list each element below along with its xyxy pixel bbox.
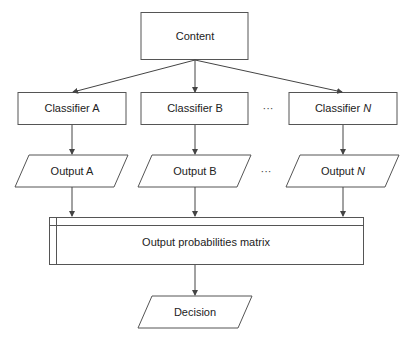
arrow-content-to-n xyxy=(195,60,342,92)
matrix-label: Output probabilities matrix xyxy=(142,236,270,248)
output-n-label: Output N xyxy=(321,165,365,177)
ellipsis-classifiers: ··· xyxy=(263,102,274,114)
classifier-n-label: Classifier N xyxy=(315,102,371,114)
ellipsis-outputs: ··· xyxy=(261,165,272,177)
decision-label: Decision xyxy=(174,306,216,318)
classifier-b-label: Classifier B xyxy=(167,102,223,114)
content-label: Content xyxy=(176,30,215,42)
classifier-a-label: Classifier A xyxy=(44,102,99,114)
arrow-content-to-a xyxy=(73,60,195,92)
output-b-label: Output B xyxy=(173,165,216,177)
output-a-label: Output A xyxy=(51,165,94,177)
